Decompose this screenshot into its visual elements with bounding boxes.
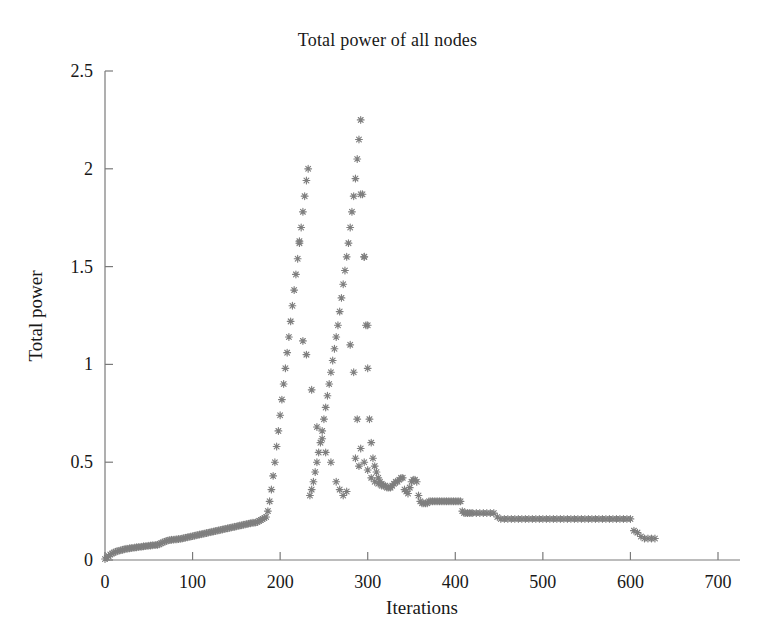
data-point: [270, 472, 277, 479]
data-point: [326, 381, 333, 388]
data-point: [284, 349, 291, 356]
data-point: [303, 351, 310, 358]
data-point: [405, 490, 412, 497]
data-point: [356, 463, 363, 470]
data-point: [296, 238, 303, 245]
data-point: [349, 208, 356, 215]
data-point: [322, 404, 329, 411]
data-point: [347, 341, 354, 348]
data-point: [314, 459, 321, 466]
data-point: [340, 281, 347, 288]
data-point: [264, 508, 271, 515]
x-axis-label: Iterations: [386, 597, 458, 618]
data-point: [328, 459, 335, 466]
data-point: [357, 117, 364, 124]
data-point: [338, 295, 345, 302]
data-point: [280, 381, 287, 388]
data-point: [352, 455, 359, 462]
data-point: [354, 156, 361, 163]
data-point: [328, 369, 335, 376]
data-point: [361, 253, 368, 260]
y-axis-ticks: 00.511.522.5: [71, 61, 114, 570]
x-tick-label: 200: [267, 572, 294, 592]
data-point: [291, 287, 298, 294]
y-tick-label: 1: [84, 354, 93, 374]
data-point: [289, 302, 296, 309]
y-tick-label: 0.5: [71, 452, 94, 472]
data-point: [357, 445, 364, 452]
y-axis-label: Total power: [25, 270, 46, 362]
data-point: [413, 478, 420, 485]
data-point: [294, 255, 301, 262]
data-point: [314, 424, 321, 431]
data-point: [278, 396, 285, 403]
data-point: [347, 224, 354, 231]
data-point: [303, 177, 310, 184]
y-tick-label: 2: [84, 159, 93, 179]
data-point: [308, 386, 315, 393]
data-point: [364, 365, 371, 372]
chart-figure: Total power of all nodes 00.511.522.5 01…: [0, 0, 775, 637]
data-point: [305, 165, 312, 172]
data-point: [368, 439, 375, 446]
data-point: [352, 175, 359, 182]
data-point: [371, 463, 378, 470]
data-point: [373, 469, 380, 476]
data-point: [350, 193, 357, 200]
data-point: [457, 498, 464, 505]
data-point: [350, 369, 357, 376]
data-point: [333, 478, 340, 485]
data-point: [343, 488, 350, 495]
data-point: [378, 482, 385, 489]
data-point: [356, 136, 363, 143]
data-point: [335, 322, 342, 329]
data-point: [399, 474, 406, 481]
y-tick-label: 2.5: [71, 61, 94, 81]
data-point: [268, 486, 275, 493]
data-point: [627, 516, 634, 523]
data-point: [331, 345, 338, 352]
data-point: [321, 416, 328, 423]
data-point: [333, 334, 340, 341]
data-point: [271, 459, 278, 466]
data-point: [343, 253, 350, 260]
x-tick-label: 100: [179, 572, 206, 592]
data-point: [342, 267, 349, 274]
data-point: [293, 271, 300, 278]
data-point: [329, 357, 336, 364]
data-point: [301, 193, 308, 200]
data-point: [307, 492, 314, 499]
x-tick-label: 500: [529, 572, 556, 592]
x-tick-label: 400: [442, 572, 469, 592]
data-point: [336, 308, 343, 315]
data-point: [370, 455, 377, 462]
data-point: [354, 416, 361, 423]
data-point: [652, 535, 659, 542]
data-point: [336, 486, 343, 493]
data-point: [366, 416, 373, 423]
x-tick-label: 300: [354, 572, 381, 592]
data-point: [361, 459, 368, 466]
data-point: [287, 318, 294, 325]
data-point: [300, 208, 307, 215]
data-point: [298, 224, 305, 231]
data-point: [322, 449, 329, 456]
x-axis-ticks: 0100200300400500600700: [101, 552, 732, 592]
data-point: [415, 492, 422, 499]
x-tick-label: 600: [617, 572, 644, 592]
data-point: [277, 412, 284, 419]
data-point: [273, 443, 280, 450]
data-point: [286, 334, 293, 341]
x-tick-label: 0: [101, 572, 110, 592]
data-point: [364, 322, 371, 329]
data-point: [300, 338, 307, 345]
data-point: [310, 478, 317, 485]
data-point: [345, 240, 352, 247]
y-tick-label: 1.5: [71, 257, 94, 277]
data-point: [312, 469, 319, 476]
data-point: [315, 449, 322, 456]
data-point: [357, 191, 364, 198]
scatter-plot: 00.511.522.5 0100200300400500600700 Iter…: [0, 0, 775, 637]
y-tick-label: 0: [84, 550, 93, 570]
data-point: [324, 392, 331, 399]
